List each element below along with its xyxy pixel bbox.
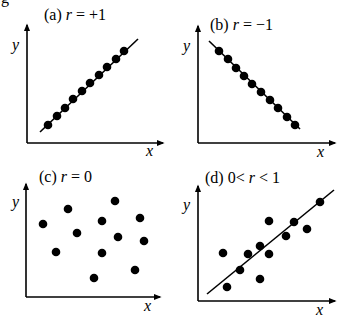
panel-b-label: (b) r = −1	[210, 16, 273, 34]
panel-d-label: (d) 0< r < 1	[205, 169, 280, 187]
panel-b-x-label: x	[316, 143, 324, 160]
panel-d-y-label: y	[181, 196, 191, 214]
panel-c: (c) r = 0 y x	[10, 168, 160, 314]
correlation-figure: g (a) r = +1 y x (b) r = −1 y x	[0, 0, 342, 322]
panel-c-x-label: x	[143, 297, 151, 314]
panel-a-x-label: x	[145, 142, 153, 159]
panel-a-label: (a) r = +1	[44, 6, 106, 24]
panel-a: (a) r = +1 y x	[10, 6, 163, 159]
panel-b-y-label: y	[181, 37, 191, 55]
panel-d-x-label: x	[315, 301, 323, 318]
panel-c-points	[39, 197, 149, 283]
panel-a-y-label: y	[10, 36, 20, 54]
panel-d: (d) 0< r < 1 y x	[181, 169, 335, 318]
panel-c-label: (c) r = 0	[39, 168, 92, 186]
panel-d-fit-line	[207, 190, 334, 294]
panel-c-y-label: y	[10, 193, 20, 211]
cropped-title-fragment: g	[1, 0, 9, 7]
panel-b: (b) r = −1 y x	[181, 16, 335, 160]
